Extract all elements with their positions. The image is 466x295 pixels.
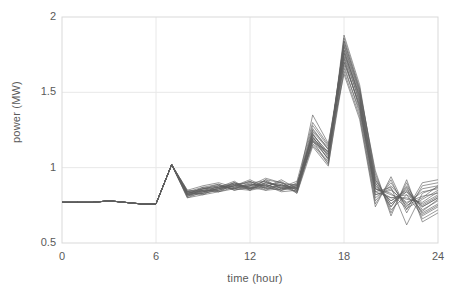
x-tick-label: 24 (423, 250, 453, 262)
y-tick-label: 0.5 (26, 236, 56, 248)
x-tick-label: 0 (47, 250, 77, 262)
x-axis-title: time (hour) (195, 272, 315, 284)
grid-lines (62, 17, 438, 243)
y-tick-label: 1 (26, 161, 56, 173)
x-tick-label: 18 (329, 250, 359, 262)
y-tick-label: 1.5 (26, 85, 56, 97)
chart-figure: power (MW) time (hour) 0.511.52 06121824 (0, 0, 466, 295)
x-tick-label: 12 (235, 250, 265, 262)
x-tick-label: 6 (141, 250, 171, 262)
y-axis-title: power (MW) (10, 67, 22, 157)
y-tick-label: 2 (26, 10, 56, 22)
